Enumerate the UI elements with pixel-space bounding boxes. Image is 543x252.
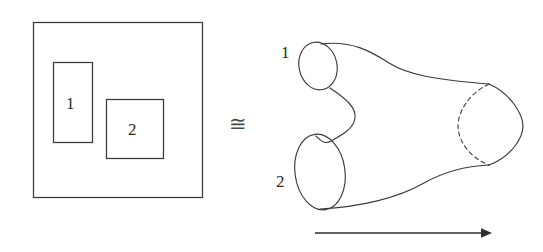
figure-canvas: [0, 0, 543, 252]
arrow-head-icon: [481, 228, 492, 238]
hole-1-label: 1: [66, 95, 75, 112]
boundary-circle-1: [294, 39, 341, 94]
congruence-symbol: ≅: [229, 114, 247, 135]
homeomorphism-figure: 1 2 ≅ 1 2: [0, 0, 543, 252]
direction-arrow: [315, 228, 492, 238]
boundary-2-label: 2: [276, 173, 285, 190]
right-cap-hidden-arc: [458, 84, 489, 165]
boundary-1-label: 1: [281, 44, 290, 61]
top-contour: [321, 43, 489, 84]
outer-square: [34, 23, 203, 198]
right-cap-front-arc: [489, 84, 523, 165]
hole-2-label: 2: [128, 121, 137, 138]
right-panel-surface: [290, 39, 523, 214]
left-panel-square-with-holes: [34, 23, 203, 198]
boundary-circle-2: [290, 131, 350, 213]
